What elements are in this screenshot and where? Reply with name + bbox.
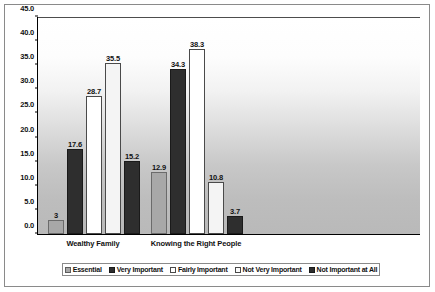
y-axis-tick-mark — [35, 88, 38, 89]
y-axis-tick-mark — [35, 16, 38, 17]
bar-value-label: 15.2 — [125, 152, 139, 161]
y-axis-tick-label: 10.0 — [20, 172, 34, 181]
bar: 3.7 — [227, 216, 243, 234]
bar: 10.8 — [208, 182, 224, 234]
y-axis-tick-label: 15.0 — [20, 148, 34, 157]
y-axis-tick-label: 40.0 — [20, 28, 34, 37]
bar: 12.9 — [151, 172, 167, 234]
bar-value-label: 17.6 — [68, 140, 82, 149]
legend-item: Essential — [65, 266, 102, 273]
category-label: Knowing the Right People — [136, 239, 256, 249]
bar-value-label: 12.9 — [152, 163, 166, 172]
y-axis-tick-label: 0.0 — [24, 221, 34, 230]
bar: 17.6 — [67, 149, 83, 234]
bar-value-label: 38.3 — [190, 40, 204, 49]
y-axis-tick-mark — [35, 136, 38, 137]
bar-value-label: 3.7 — [230, 207, 240, 216]
chart-legend: EssentialVery ImportantFairly ImportantN… — [62, 263, 380, 276]
legend-swatch — [235, 267, 241, 273]
y-axis-tick-label: 20.0 — [20, 124, 34, 133]
y-axis-tick-mark — [35, 208, 38, 209]
bar: 35.5 — [105, 63, 121, 234]
y-axis-tick-mark — [35, 40, 38, 41]
y-axis-tick-label: 5.0 — [24, 196, 34, 205]
legend-swatch — [309, 267, 315, 273]
legend-swatch — [170, 267, 176, 273]
legend-label: Fairly Important — [178, 266, 228, 273]
legend-swatch — [65, 267, 71, 273]
category-label: Wealthy Family — [33, 239, 153, 249]
chart-frame: 0.05.010.015.020.025.030.035.040.045.0 3… — [4, 4, 430, 287]
y-axis-tick-label: 30.0 — [20, 76, 34, 85]
bar: 34.3 — [170, 69, 186, 234]
bar: 3 — [48, 220, 64, 234]
legend-swatch — [109, 267, 115, 273]
bar: 38.3 — [189, 49, 205, 234]
legend-label: Very Important — [117, 266, 163, 273]
bar-value-label: 35.5 — [106, 54, 120, 63]
legend-item: Fairly Important — [170, 266, 228, 273]
bar-value-label: 28.7 — [87, 87, 101, 96]
y-axis-tick-label: 45.0 — [20, 4, 34, 13]
plot-top-rule — [38, 17, 420, 18]
bar-value-label: 3 — [54, 211, 58, 220]
legend-label: Not Very Important — [243, 266, 302, 273]
legend-label: Essential — [73, 266, 102, 273]
bar-value-label: 10.8 — [209, 173, 223, 182]
y-axis-tick-label: 35.0 — [20, 52, 34, 61]
y-axis-tick-label: 25.0 — [20, 100, 34, 109]
plot-area: 0.05.010.015.020.025.030.035.040.045.0 3… — [37, 17, 420, 235]
y-axis-tick-mark — [35, 64, 38, 65]
bar-value-label: 34.3 — [171, 60, 185, 69]
y-axis-tick-mark — [35, 112, 38, 113]
legend-item: Not Very Important — [235, 266, 302, 273]
y-axis-tick-mark — [35, 233, 38, 234]
bar: 28.7 — [86, 96, 102, 234]
legend-item: Not Important at All — [309, 266, 378, 273]
bar: 15.2 — [124, 161, 140, 234]
y-axis-tick-mark — [35, 160, 38, 161]
legend-item: Very Important — [109, 266, 163, 273]
y-axis-tick-mark — [35, 184, 38, 185]
legend-label: Not Important at All — [317, 266, 378, 273]
